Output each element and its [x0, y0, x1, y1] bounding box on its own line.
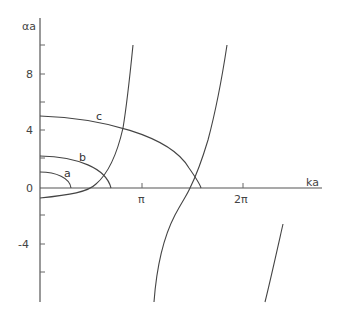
- x-tick-label-2pi: 2π: [234, 193, 248, 206]
- y-tick-label-0: 0: [26, 182, 33, 195]
- x-tick-label-pi: π: [138, 193, 145, 206]
- curve-label-c: c: [96, 110, 102, 123]
- y-tick-label-8: 8: [26, 68, 33, 81]
- curve-label-b: b: [79, 151, 86, 164]
- curve-b: [40, 156, 111, 188]
- y-tick-label-neg4: -4: [18, 238, 29, 251]
- y-ticks: [40, 45, 45, 272]
- dispersion-chart: αa 8 4 0 -4 π 2π ka a b c: [0, 0, 340, 323]
- curve-branch-1: [40, 45, 133, 198]
- curve-branch-2: [154, 45, 227, 302]
- x-axis-label: ka: [306, 176, 319, 189]
- y-tick-label-4: 4: [26, 124, 33, 137]
- curve-branch-3: [265, 224, 283, 302]
- y-axis-label: αa: [22, 20, 36, 33]
- curve-label-a: a: [64, 167, 71, 180]
